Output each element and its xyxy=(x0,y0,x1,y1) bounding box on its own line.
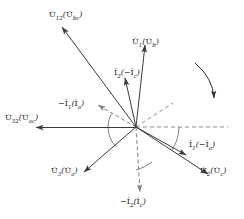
label-u1: U̇1(U̇b) xyxy=(132,38,159,48)
label-neg-i1: −İ1(İa) xyxy=(58,100,84,110)
phase-angle-arc-right xyxy=(172,127,179,150)
phase-angle-arc-left xyxy=(108,114,112,128)
phasor-diagram: U̇12(U̇bc) U̇1(U̇b) İ2(−İc) U̇32(U̇ac)… xyxy=(0,0,244,219)
phase-angle-arc-lower-left xyxy=(108,127,116,147)
label-u12: U̇12(U̇bc) xyxy=(49,11,82,21)
vector-u3 xyxy=(84,127,136,172)
label-u32: U̇32(U̇ac) xyxy=(5,114,38,124)
label-i1: İ1(−İa) xyxy=(189,141,215,151)
reference-lines xyxy=(136,103,228,127)
label-neg-i2: −İ2(İc) xyxy=(120,198,146,208)
label-u2: U̇2(U̇c) xyxy=(200,167,226,177)
vector-u1 xyxy=(136,45,145,127)
label-u3: U̇3(U̇a) xyxy=(51,167,78,177)
label-i2: İ2(−İc) xyxy=(114,69,140,79)
vector-neg-i1 xyxy=(98,105,136,127)
phasor-diagram-canvas xyxy=(0,0,244,219)
vector-neg-i2 xyxy=(136,127,140,192)
clockwise-rotation-arrow xyxy=(195,63,214,98)
upper-right-reference-line xyxy=(136,103,173,127)
